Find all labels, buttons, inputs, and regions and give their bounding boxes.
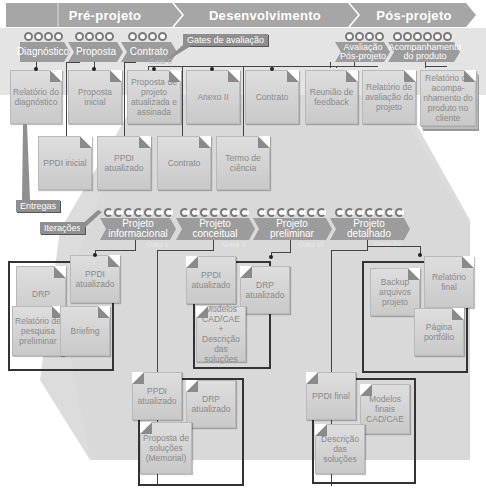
arrowhead [93,253,97,257]
connector [425,66,447,67]
doc-ppdi-atualizado: PPDI atualizado [97,136,151,190]
stage-diagnostico: Diagnóstico [20,42,66,62]
connector [157,250,214,251]
iteration-dots-avaliacao [345,32,384,41]
doc-proposta-inicial: Proposta inicial [68,70,122,124]
stage-acompanhamento-produto: Acompanhamento do produto [392,41,458,63]
doc-drp-atualizado-conceitual: DRP atualizado [240,266,290,314]
connector [148,66,336,67]
iteration-dots-informacional [104,208,173,217]
connector [124,62,136,63]
gate-iii-label: Gate III [298,240,324,249]
iteration-dots-proposta [75,32,114,41]
iteration-dots-conceitual [180,208,249,217]
connector [290,240,291,252]
connector [95,250,136,251]
doc-anexo-ii: Anexo II [186,70,240,124]
arrowhead [92,67,96,71]
connector [213,240,214,250]
arrowhead [210,67,214,71]
stage-projeto-informacional: Projeto informacional [104,218,172,240]
doc-relatorio-diagnostico: Relatório do diagnóstico [10,70,62,124]
arrowhead [34,67,38,71]
gate-0-label: Gate 0 [148,57,172,66]
entregas-tag: Entregas [16,200,60,212]
arrowhead [418,253,422,257]
doc-briefing: Briefing [60,306,110,356]
entregas-pointer [18,124,48,208]
phase-desenvolvimento: Desenvolvimento [180,3,350,27]
phase-pre-projeto: Pré-projeto [40,3,170,27]
connector [330,66,378,67]
connector [425,62,426,68]
connector [367,240,368,250]
stage-projeto-conceitual: Projeto conceitual [180,218,250,240]
stage-projeto-detalhado: Projeto detalhado [334,218,404,240]
doc-relatorio-avaliacao: Relatório de avaliação do projeto [362,70,416,124]
iteration-dots-detalhado [335,208,404,217]
iteration-dots-preliminar [257,208,326,217]
connector [331,250,368,251]
doc-modelos-finais: Modelos finais CAD/CAE [360,384,410,434]
doc-contrato-top: Contrato [245,70,299,124]
iteration-dots-contrato [128,32,167,41]
stage-proposta: Proposta [72,42,120,62]
connector [368,246,420,247]
gate-ii-label: Gate II [222,240,246,249]
doc-ppdi-final: PPDI final [306,372,356,420]
doc-proposta-atualizada: Proposta de projeto atualizada e assinad… [127,70,181,124]
doc-drp-atualizado-preliminar: DRP atualizado [186,380,236,428]
iteration-dots-diagnostico [24,32,63,41]
arrowhead [152,67,156,71]
doc-pagina-portfolio: Página portfólio [414,308,464,356]
doc-ppdi-atualizado-informacional: PPDI atualizado [70,255,120,303]
doc-ppdi-atualizado-conceitual: PPDI atualizado [186,256,236,304]
stage-avaliacao-pos-projeto: Avaliação Pós-projeto [338,41,388,63]
connector [330,62,331,68]
doc-termo-ciencia: Termo de ciência [216,136,270,190]
phase-pos-projeto: Pós-projeto [356,3,472,27]
connector [66,62,80,63]
doc-contrato-bottom: Contrato [157,136,211,190]
doc-modelos-cad-cae-descricao: Modelos CAD/CAE + Descrição das soluções [196,306,246,362]
connector [135,240,136,250]
iteration-dots-acompanhamento [393,32,452,41]
arrowhead [270,67,274,71]
stage-projeto-preliminar: Projeto preliminar [257,218,327,240]
doc-relatorio-final: Relatório final [424,256,474,308]
doc-proposta-solucoes: Proposta de soluções (Memorial) [140,422,192,474]
doc-ppdi-atualizado-preliminar: PPDI atualizado [132,372,182,420]
arrowhead [269,255,273,259]
doc-descricao-solucoes: Descrição das soluções [315,424,365,474]
doc-relatorio-acompanhamento: Relatório de acompa-nhamento do produto … [420,70,476,126]
gate-i-label: Gate I [146,240,168,249]
gate-iv-label: Gate IV [374,240,401,249]
doc-relatorio-pesquisa: Relatório de pesquisa preliminar [12,306,64,356]
doc-reuniao-feedback: Reunião de feedback [305,70,358,124]
connector [271,252,291,253]
connector [354,62,355,66]
doc-backup-arquivos: Backup arquivos projeto [370,268,420,316]
